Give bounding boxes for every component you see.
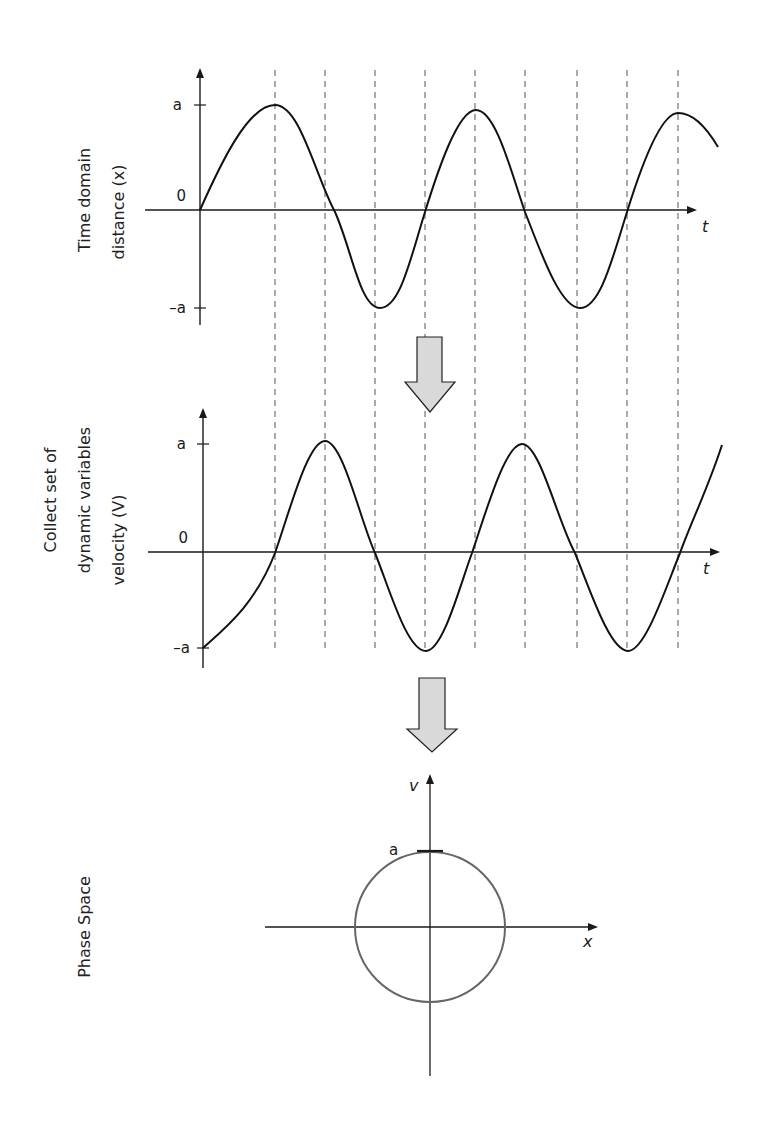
distance-label: distance (x) bbox=[109, 165, 128, 260]
t-axis-label: t bbox=[702, 217, 709, 236]
y-tick-zero: 0 bbox=[178, 529, 188, 547]
dynamic-variables-label: dynamic variables bbox=[75, 427, 94, 573]
v-axis-label: v bbox=[409, 776, 419, 795]
velocity-curve bbox=[203, 441, 722, 651]
collect-set-label: Collect set of bbox=[41, 447, 60, 552]
velocity-label: velocity (V) bbox=[109, 494, 128, 585]
dashed-guides bbox=[275, 70, 678, 652]
displacement-curve bbox=[200, 105, 718, 308]
y-tick-zero: 0 bbox=[176, 187, 186, 205]
y-tick-neg-a: –a bbox=[169, 299, 186, 317]
phase-space-plot: Phase Space v x a bbox=[75, 776, 596, 1076]
down-arrow-1-icon bbox=[405, 337, 455, 412]
radius-label: a bbox=[389, 841, 398, 859]
y-tick-a: a bbox=[177, 435, 186, 453]
t-axis-label: t bbox=[703, 559, 710, 578]
down-arrow-2-icon bbox=[407, 678, 457, 752]
y-tick-neg-a: –a bbox=[173, 639, 190, 657]
phase-space-label: Phase Space bbox=[75, 876, 94, 978]
y-tick-a: a bbox=[173, 96, 182, 114]
time-domain-label: Time domain bbox=[75, 148, 94, 253]
velocity-plot: Collect set of dynamic variables velocit… bbox=[41, 410, 722, 668]
diagram-canvas: Time domain distance (x) a 0 –a t Collec… bbox=[0, 0, 762, 1136]
x-axis-label: x bbox=[582, 932, 593, 951]
time-domain-plot: Time domain distance (x) a 0 –a t bbox=[75, 70, 718, 325]
